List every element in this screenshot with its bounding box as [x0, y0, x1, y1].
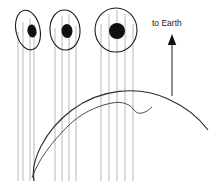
ellipse-source-middle: [49, 9, 82, 51]
diagram-canvas: to Earth: [0, 0, 217, 181]
source-pupil: [26, 24, 38, 39]
to-earth-label: to Earth: [152, 18, 182, 28]
source-pupil: [61, 24, 73, 39]
figure-container: to Earth: [0, 0, 217, 181]
earth-limb-curve: [33, 91, 208, 181]
source-pupil: [109, 23, 125, 39]
refracted-wave-curve: [32, 102, 152, 178]
ray-group-source-2: [55, 14, 76, 181]
ellipse-source-left: [12, 8, 44, 52]
to-earth-arrow: [168, 34, 176, 96]
up-arrow-icon: [168, 34, 176, 45]
